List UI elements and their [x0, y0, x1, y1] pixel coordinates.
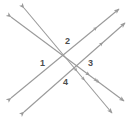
- parallel-lines-figure: [0, 0, 130, 125]
- line-a: [11, 17, 124, 101]
- geometry-diagram: 1 2 3 4: [0, 0, 130, 125]
- angle-label-2: 2: [65, 37, 70, 46]
- line-group-down-right: [11, 8, 124, 113]
- angle-label-4: 4: [63, 78, 68, 87]
- angle-label-3: 3: [88, 59, 93, 68]
- angle-label-1: 1: [40, 59, 45, 68]
- line-b: [24, 8, 112, 113]
